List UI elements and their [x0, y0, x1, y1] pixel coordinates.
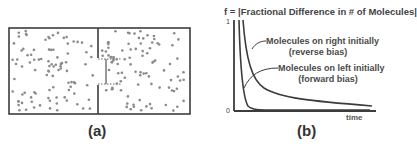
label-reverse-bias: Molecules on right initially (reverse bi… [266, 36, 370, 58]
label-forward-line2: (forward bias) [278, 74, 378, 85]
panel-a-box-diagram: (a) [0, 0, 200, 151]
caption-b: (b) [297, 122, 316, 139]
caption-a: (a) [88, 122, 106, 139]
x-axis-label: time [346, 113, 362, 122]
label-reverse-line1: Molecules on right initially [266, 36, 370, 47]
label-forward-bias: Molecules on left initially (forward bia… [278, 63, 378, 85]
label-forward-line1: Molecules on left initially [278, 63, 378, 74]
arrow-right-label [252, 41, 266, 49]
panel-b-chart: f = |Fractional Difference in # of Molec… [200, 0, 398, 151]
label-reverse-line2: (reverse bias) [266, 47, 370, 58]
